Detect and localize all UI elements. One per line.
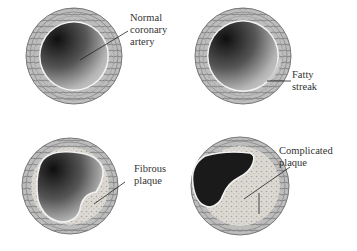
fibrous-plaque-cross-section xyxy=(22,138,125,234)
normal-artery-cross-section xyxy=(26,8,128,104)
label-complicated-plaque: Complicated plaque xyxy=(279,145,333,169)
fatty-streak-cross-section xyxy=(195,8,291,104)
label-fibrous-plaque: Fibrous plaque xyxy=(134,163,166,187)
label-fatty-streak: Fatty streak xyxy=(292,69,317,93)
complicated-plaque-cross-section xyxy=(191,137,290,235)
artery-diagram xyxy=(0,0,357,251)
label-normal-coronary-artery: Normal coronary artery xyxy=(130,12,167,48)
